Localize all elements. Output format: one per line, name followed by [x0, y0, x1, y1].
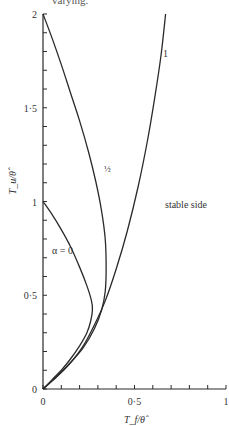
x-tick-label: 1 — [224, 396, 229, 407]
y-tick-label: 2 — [32, 9, 37, 20]
x-tick-label: 0 — [41, 396, 46, 407]
x-axis-title: T_f/θ̂ — [124, 414, 149, 425]
curve-alpha-half — [43, 14, 106, 389]
y-tick-label: 0 — [32, 384, 37, 395]
y-tick-label: 1 — [32, 197, 37, 208]
curves — [43, 14, 166, 389]
y-tick-label: 0·5 — [24, 290, 37, 301]
label-alpha-0: α = 0 — [52, 245, 73, 256]
y-tick-label: 1·5 — [24, 103, 37, 114]
label-alpha-half: ½ — [104, 164, 111, 174]
y-axis-title: T_u/θ̂ — [7, 167, 18, 194]
stability-chart: 00·5100·511·52T_f/θ̂T_u/θ̂α = 0½1stable … — [0, 0, 228, 426]
annotation-stable-side: stable side — [165, 199, 207, 210]
curve-alpha-1 — [43, 14, 166, 389]
x-tick-label: 0·5 — [128, 396, 141, 407]
labels: 00·5100·511·52T_f/θ̂T_u/θ̂α = 0½1stable … — [7, 9, 228, 425]
curve-alpha-0 — [43, 202, 92, 390]
label-alpha-1: 1 — [163, 48, 168, 59]
